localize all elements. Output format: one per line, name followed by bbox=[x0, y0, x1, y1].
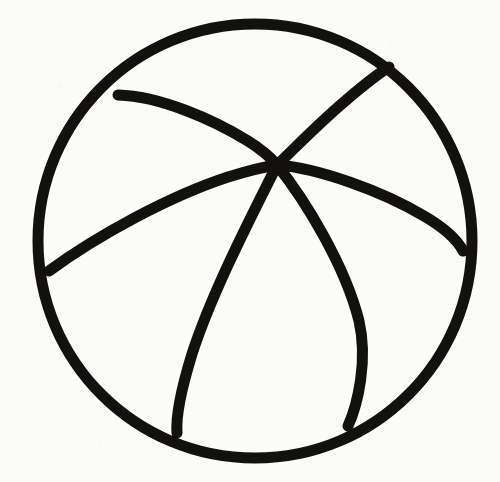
paper-background bbox=[0, 0, 500, 482]
drawing-canvas bbox=[0, 0, 500, 482]
beach-ball-figure bbox=[0, 0, 500, 482]
